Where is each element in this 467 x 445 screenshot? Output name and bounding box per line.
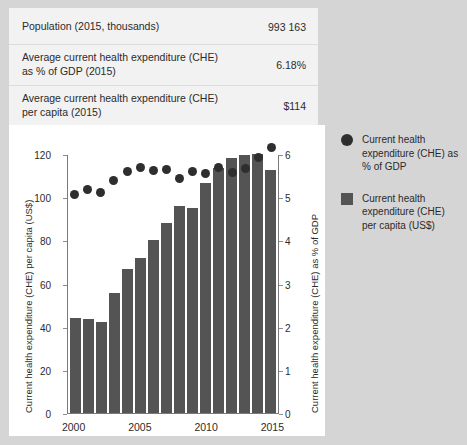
y-axis-right-tick-label: 1 bbox=[285, 365, 291, 376]
circle-marker-icon bbox=[341, 134, 353, 146]
summary-value: 993 163 bbox=[262, 21, 306, 33]
x-axis-tick-label: 2010 bbox=[194, 421, 217, 433]
bar bbox=[96, 322, 107, 413]
y-axis-left-title: Current health expenditure (CHE) per cap… bbox=[23, 200, 34, 413]
y-axis-right-tick-label: 0 bbox=[285, 409, 291, 420]
table-row: Average current health expenditure (CHE)… bbox=[9, 45, 318, 86]
y-axis-left-tick-label: 0 bbox=[45, 409, 51, 420]
chart-plot-area: Current health expenditure (CHE) per cap… bbox=[9, 125, 325, 436]
bar bbox=[187, 208, 198, 413]
summary-value: $114 bbox=[277, 100, 306, 112]
bar-series bbox=[68, 155, 278, 413]
y-axis-right-tick-label: 6 bbox=[285, 150, 291, 161]
bar bbox=[83, 319, 94, 413]
bar bbox=[70, 318, 81, 413]
bar bbox=[200, 183, 211, 413]
tick-mark bbox=[63, 371, 67, 372]
tick-mark bbox=[279, 241, 283, 242]
y-axis-left-tick-label: 60 bbox=[40, 279, 51, 290]
bar bbox=[161, 223, 172, 413]
bar bbox=[213, 168, 224, 413]
bar bbox=[226, 158, 237, 413]
summary-value: 6.18% bbox=[270, 59, 306, 71]
tick-mark bbox=[279, 371, 283, 372]
table-row: Average current health expenditure (CHE)… bbox=[9, 86, 318, 127]
y-axis-right-title: Current health expenditure (CHE) as % of… bbox=[309, 214, 320, 413]
bar bbox=[109, 293, 120, 413]
y-axis-right-tick-label: 5 bbox=[285, 193, 291, 204]
tick-mark bbox=[63, 241, 67, 242]
y-axis-right-tick-label: 2 bbox=[285, 322, 291, 333]
tick-mark bbox=[63, 198, 67, 199]
tick-mark bbox=[279, 414, 283, 415]
tick-mark bbox=[279, 198, 283, 199]
bar bbox=[122, 269, 133, 413]
y-axis-left-tick-label: 80 bbox=[40, 236, 51, 247]
legend-item-che-per-capita: Current health expenditure (CHE) per cap… bbox=[341, 192, 461, 233]
legend-item-che-percent-gdp: Current health expenditure (CHE) as % of… bbox=[341, 133, 461, 174]
table-row: Population (2015, thousands) 993 163 bbox=[9, 10, 318, 45]
summary-label: Population (2015, thousands) bbox=[22, 20, 159, 34]
y-axis-left-tick-label: 20 bbox=[40, 365, 51, 376]
tick-mark bbox=[279, 285, 283, 286]
tick-mark bbox=[63, 328, 67, 329]
tick-mark bbox=[279, 155, 283, 156]
x-axis-tick-label: 2015 bbox=[261, 421, 284, 433]
bar bbox=[148, 240, 159, 413]
scatter-point bbox=[267, 143, 276, 152]
bar bbox=[265, 170, 276, 413]
tick-mark bbox=[279, 328, 283, 329]
chart-legend: Current health expenditure (CHE) as % of… bbox=[341, 133, 461, 251]
summary-label: Average current health expenditure (CHE)… bbox=[22, 51, 227, 79]
tick-mark bbox=[63, 414, 67, 415]
y-axis-left-tick-label: 120 bbox=[34, 150, 51, 161]
square-marker-icon bbox=[341, 193, 353, 205]
legend-label: Current health expenditure (CHE) per cap… bbox=[362, 192, 461, 233]
bar bbox=[174, 206, 185, 413]
summary-label: Average current health expenditure (CHE)… bbox=[22, 92, 227, 120]
x-axis-tick-label: 2000 bbox=[62, 421, 85, 433]
y-axis-right-tick-label: 4 bbox=[285, 236, 291, 247]
y-axis-right-tick-label: 3 bbox=[285, 279, 291, 290]
tick-mark bbox=[63, 285, 67, 286]
x-axis-tick-label: 2005 bbox=[128, 421, 151, 433]
bar bbox=[239, 155, 250, 413]
bar bbox=[135, 258, 146, 413]
legend-label: Current health expenditure (CHE) as % of… bbox=[362, 133, 461, 174]
bar bbox=[252, 154, 263, 413]
y-axis-left-tick-label: 40 bbox=[40, 322, 51, 333]
y-axis-left-tick-label: 100 bbox=[34, 193, 51, 204]
tick-mark bbox=[63, 155, 67, 156]
plot-frame bbox=[67, 155, 279, 414]
chart-card: Current health expenditure (CHE) per cap… bbox=[9, 125, 325, 436]
